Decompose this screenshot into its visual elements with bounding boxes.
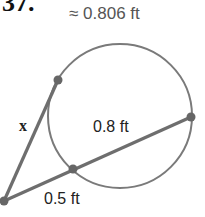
internal-secant-label: 0.8 ft xyxy=(93,118,129,136)
circle-diagram xyxy=(0,0,205,217)
far-intersection-point xyxy=(187,113,196,122)
tangent-point xyxy=(54,76,63,85)
external-secant-label: 0.5 ft xyxy=(44,190,80,208)
tangent-label: x xyxy=(19,117,27,135)
tangent-segment xyxy=(4,80,58,201)
near-intersection-point xyxy=(69,165,78,174)
